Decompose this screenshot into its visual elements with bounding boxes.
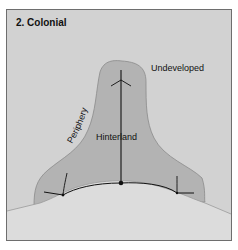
main-port-dot (119, 181, 124, 186)
east-port-dot (176, 192, 178, 194)
colonial-diagram: 2. Colonial Undeveloped Hinterland Perip… (0, 0, 238, 250)
label-hinterland: Hinterland (96, 132, 137, 142)
west-port-dot (62, 194, 65, 197)
label-undeveloped: Undeveloped (151, 63, 204, 73)
diagram-title: 2. Colonial (16, 17, 67, 28)
